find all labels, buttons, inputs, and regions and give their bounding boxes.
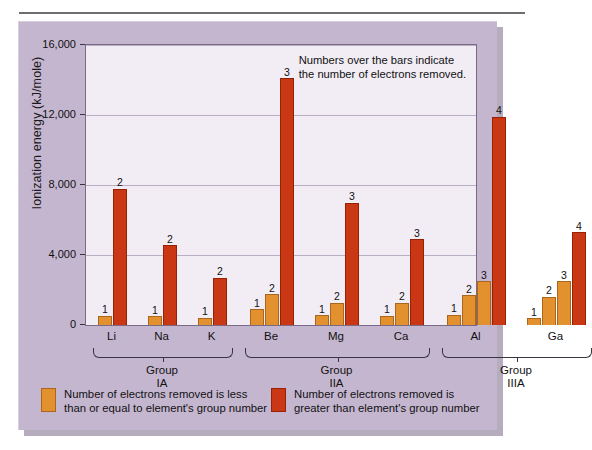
y-tick-mark [80, 184, 85, 185]
bar-value-label: 3 [561, 270, 567, 281]
page-divider-rule [19, 12, 525, 14]
bar-ca-1: 1 [380, 316, 394, 325]
group-bracket-0 [93, 348, 233, 358]
bar-li-1: 1 [98, 316, 112, 325]
bar-value-label: 2 [334, 291, 340, 302]
y-tick-mark [80, 324, 85, 325]
bar-value-label: 2 [399, 291, 405, 302]
y-tick-mark [80, 44, 85, 45]
bar-na-2: 2 [163, 245, 177, 325]
legend-item-high: Number of electrons removed is greater t… [271, 388, 480, 415]
figure-panel: 12121212312312312341234 Numbers over the… [18, 21, 497, 430]
bar-value-label: 1 [254, 298, 260, 309]
legend-label: Number of electrons removed is less than… [64, 388, 267, 415]
chart-annotation: Numbers over the bars indicate the numbe… [299, 53, 466, 81]
element-label-ca: Ca [394, 330, 409, 342]
bar-al-2: 2 [462, 295, 476, 325]
bar-be-3: 3 [280, 78, 294, 325]
bar-ga-3: 3 [557, 281, 571, 325]
bar-al-4: 4 [492, 117, 506, 325]
bar-ga-2: 2 [542, 297, 556, 325]
group-label-1: Group IIA [321, 364, 353, 390]
group-bracket-2 [442, 348, 592, 358]
bar-value-label: 2 [167, 234, 173, 245]
legend-swatch-high [271, 388, 286, 412]
group-label-0: Group IA [146, 364, 178, 390]
bar-value-label: 1 [152, 305, 158, 316]
bar-mg-2: 2 [330, 303, 344, 325]
bar-value-label: 3 [414, 228, 420, 239]
bar-ga-1: 1 [527, 318, 541, 325]
group-bracket-1 [245, 348, 430, 358]
bar-value-label: 2 [269, 283, 275, 294]
bar-li-2: 2 [113, 189, 127, 326]
bar-value-label: 3 [284, 67, 290, 78]
bar-value-label: 1 [102, 304, 108, 315]
bar-ca-2: 2 [395, 303, 409, 325]
element-label-k: K [208, 330, 216, 342]
bar-value-label: 1 [531, 307, 537, 318]
bar-value-label: 1 [319, 304, 325, 315]
bar-value-label: 1 [384, 304, 390, 315]
element-label-al: Al [470, 330, 480, 342]
bar-na-1: 1 [148, 316, 162, 325]
bar-k-1: 1 [198, 318, 212, 325]
plot-area: 12121212312312312341234 Numbers over the… [85, 44, 477, 326]
y-tick-label: 16,000 [24, 38, 76, 50]
bar-al-1: 1 [447, 315, 461, 326]
bar-value-label: 3 [349, 191, 355, 202]
bar-be-2: 2 [265, 294, 279, 325]
element-label-mg: Mg [328, 330, 344, 342]
y-tick-label: 8,000 [24, 178, 76, 190]
bar-value-label: 3 [481, 270, 487, 281]
bar-ga-4: 4 [572, 232, 586, 325]
gridline [86, 45, 476, 46]
bar-mg-1: 1 [315, 315, 329, 325]
bar-al-3: 3 [477, 281, 491, 325]
y-tick-mark [80, 254, 85, 255]
bar-value-label: 2 [217, 266, 223, 277]
bar-value-label: 2 [546, 285, 552, 296]
legend-label: Number of electrons removed is greater t… [294, 388, 480, 415]
y-tick-mark [80, 114, 85, 115]
group-label-2: Group IIIA [500, 364, 532, 390]
bar-be-1: 1 [250, 309, 264, 325]
bar-ca-3: 3 [410, 239, 424, 325]
bar-value-label: 4 [576, 221, 582, 232]
legend-swatch-low [41, 388, 56, 412]
element-label-be: Be [264, 330, 278, 342]
y-tick-label: 4,000 [24, 248, 76, 260]
y-tick-label: 12,000 [24, 108, 76, 120]
element-label-ga: Ga [548, 330, 563, 342]
bar-value-label: 1 [202, 306, 208, 317]
bar-value-label: 1 [451, 303, 457, 314]
bar-mg-3: 3 [345, 203, 359, 326]
bar-value-label: 2 [117, 177, 123, 188]
element-label-li: Li [107, 330, 116, 342]
y-tick-label: 0 [24, 318, 76, 330]
bar-k-2: 2 [213, 278, 227, 325]
legend-item-low: Number of electrons removed is less than… [41, 388, 267, 415]
bar-value-label: 4 [496, 105, 502, 116]
bar-value-label: 2 [466, 284, 472, 295]
element-label-na: Na [154, 330, 169, 342]
